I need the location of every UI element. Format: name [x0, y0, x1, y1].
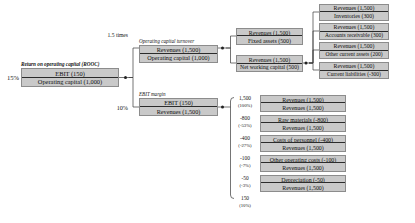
waterfall-numerator: Revenues (1,500)	[261, 96, 345, 104]
waterfall-denominator: Revenues (1,500)	[261, 163, 345, 170]
waterfall-row-raw-materials: Raw materials (-800) Revenues (1,500)	[260, 115, 346, 132]
waterfall-row-other-operating-costs: Other operating costs (-100) Revenues (1…	[260, 155, 346, 172]
capital-item-fixed-assets: Revenues (1,500) Fixed assets (500)	[236, 28, 303, 45]
waterfall-amount: -800	[234, 116, 256, 121]
wc-item-denominator: Inventories (300)	[320, 12, 388, 19]
waterfall-amount: -50	[234, 176, 256, 181]
waterfall-total-percent: (10%)	[234, 204, 256, 209]
wc-item-inventories: Revenues (1,500) Inventories (300)	[319, 4, 389, 21]
rooc-caption: Return on operating capital (ROOC)	[21, 62, 99, 67]
waterfall-denominator: Revenues (1,500)	[261, 143, 345, 150]
waterfall-numerator: Depreciation (-50)	[261, 176, 345, 184]
waterfall-percent: (-7%)	[234, 164, 256, 169]
turnover-fraction-box: Revenues (1,500) Operating capital (1,00…	[139, 45, 218, 63]
waterfall-denominator: Revenues (1,500)	[261, 183, 345, 190]
waterfall-denominator: Revenues (1,500)	[261, 103, 345, 110]
wc-item-numerator: Revenues (1,500)	[320, 43, 388, 51]
capital-item-net-working-capital: Revenues (1,500) Net working capital (50…	[236, 55, 303, 72]
waterfall-row-depreciation: Depreciation (-50) Revenues (1,500)	[260, 175, 346, 192]
waterfall-percent: (-27%)	[234, 144, 256, 149]
wc-item-numerator: Revenues (1,500)	[320, 63, 388, 71]
turnover-numerator: Revenues (1,500)	[140, 46, 217, 54]
waterfall-denominator: Revenues (1,500)	[261, 123, 345, 130]
wc-item-other-current-assets: Revenues (1,500) Other current assets (2…	[319, 42, 389, 59]
waterfall-row-costs-of-personnel: Costs of personnel (-400) Revenues (1,50…	[260, 135, 346, 152]
turnover-result: 1.5 times	[92, 33, 128, 39]
margin-numerator: EBIT (150)	[140, 99, 217, 107]
turnover-caption: Operating capital turnover	[139, 39, 194, 44]
rooc-fraction-box: EBIT (150) Operating capital (1,000)	[21, 68, 119, 87]
capital-item-denominator: Fixed assets (500)	[237, 36, 302, 43]
waterfall-numerator: Costs of personnel (-400)	[261, 136, 345, 144]
waterfall-numerator: Other operating costs (-100)	[261, 156, 345, 164]
waterfall-row-revenues: Revenues (1,500) Revenues (1,500)	[260, 95, 346, 112]
waterfall-total-amount: 150	[234, 196, 256, 201]
margin-fraction-box: EBIT (150) Revenues (1,500)	[139, 98, 218, 116]
rooc-numerator: EBIT (150)	[22, 69, 118, 78]
wc-item-denominator: Accounts receivable (300)	[320, 32, 388, 39]
margin-result: 10%	[100, 105, 128, 111]
margin-denominator: Revenues (1,500)	[140, 107, 217, 115]
waterfall-percent: (100%)	[234, 104, 256, 109]
rooc-result: 15%	[2, 75, 19, 82]
wc-item-numerator: Revenues (1,500)	[320, 5, 388, 13]
rooc-decomposition-diagram: Return on operating capital (ROOC) 15% E…	[0, 0, 415, 223]
waterfall-numerator: Raw materials (-800)	[261, 116, 345, 124]
wc-item-denominator: Other current assets (200)	[320, 51, 388, 58]
wc-item-current-liabilities: Revenues (1,500) Current liabilities (-3…	[319, 62, 389, 79]
margin-caption: EBIT margin	[139, 92, 165, 97]
waterfall-amount: -400	[234, 136, 256, 141]
waterfall-percent: (-3%)	[234, 184, 256, 189]
waterfall-percent: (-53%)	[234, 124, 256, 129]
wc-item-numerator: Revenues (1,500)	[320, 24, 388, 32]
capital-item-denominator: Net working capital (500)	[237, 64, 302, 71]
waterfall-amount: -100	[234, 156, 256, 161]
capital-item-numerator: Revenues (1,500)	[237, 29, 302, 37]
wc-item-denominator: Current liabilities (-300)	[320, 71, 388, 78]
wc-item-accounts-receivable: Revenues (1,500) Accounts receivable (30…	[319, 23, 389, 40]
turnover-denominator: Operating capital (1,000)	[140, 54, 217, 62]
rooc-denominator: Operating capital (1,000)	[22, 78, 118, 86]
waterfall-amount: 1,500	[234, 96, 256, 101]
capital-item-numerator: Revenues (1,500)	[237, 56, 302, 64]
